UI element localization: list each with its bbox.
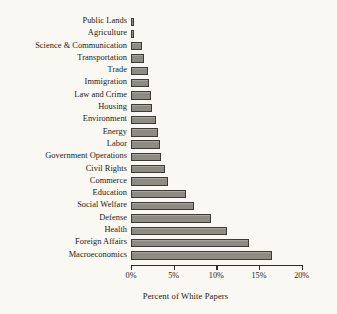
bar — [131, 153, 161, 161]
x-tick — [259, 265, 260, 270]
bar-track — [131, 104, 152, 112]
bar — [131, 79, 149, 87]
bar — [131, 128, 158, 136]
bar-row: Macroeconomics — [0, 250, 337, 262]
bar — [131, 239, 249, 247]
bar-track — [131, 177, 168, 185]
bar-track — [131, 18, 134, 26]
bar — [131, 227, 227, 235]
bar — [131, 165, 165, 173]
bar-track — [131, 54, 144, 62]
bar — [131, 42, 142, 50]
x-tick-label: 5% — [168, 271, 179, 280]
bar — [131, 91, 151, 99]
x-tick — [302, 265, 303, 270]
bar — [131, 140, 160, 148]
bar-chart: Public LandsAgricultureScience & Communi… — [0, 0, 337, 314]
bar-track — [131, 214, 211, 222]
bar — [131, 190, 186, 198]
bar — [131, 214, 211, 222]
x-axis-title: Percent of White Papers — [0, 291, 337, 301]
category-label: Energy — [0, 126, 127, 137]
category-label: Public Lands — [0, 15, 127, 26]
category-label: Immigration — [0, 76, 127, 87]
bar-track — [131, 165, 165, 173]
category-label: Social Welfare — [0, 199, 127, 210]
bar-track — [131, 30, 134, 38]
bar — [131, 18, 134, 26]
chart-rows: Public LandsAgricultureScience & Communi… — [0, 16, 337, 262]
bar-track — [131, 79, 149, 87]
x-tick-label: 20% — [294, 271, 309, 280]
category-label: Civil Rights — [0, 163, 127, 174]
bar-track — [131, 153, 161, 161]
category-label: Foreign Affairs — [0, 236, 127, 247]
bar-track — [131, 67, 148, 75]
category-label: Health — [0, 224, 127, 235]
bar-track — [131, 227, 227, 235]
bar-track — [131, 128, 158, 136]
category-label: Macroeconomics — [0, 249, 127, 260]
bar — [131, 177, 168, 185]
bar-track — [131, 116, 156, 124]
category-label: Environment — [0, 113, 127, 124]
bar-track — [131, 140, 160, 148]
bar — [131, 116, 156, 124]
category-label: Trade — [0, 64, 127, 75]
bar — [131, 251, 272, 259]
x-tick-label: 15% — [252, 271, 267, 280]
x-tick-label: 0% — [126, 271, 137, 280]
category-label: Labor — [0, 138, 127, 149]
category-label: Agriculture — [0, 27, 127, 38]
bar-track — [131, 91, 151, 99]
category-label: Transportation — [0, 52, 127, 63]
x-tick — [216, 265, 217, 270]
x-tick — [174, 265, 175, 270]
x-tick — [131, 265, 132, 270]
category-label: Defense — [0, 212, 127, 223]
bar — [131, 30, 134, 38]
bar-track — [131, 251, 272, 259]
category-label: Law and Crime — [0, 89, 127, 100]
bar — [131, 54, 144, 62]
category-label: Housing — [0, 101, 127, 112]
category-label: Government Operations — [0, 150, 127, 161]
bar-track — [131, 202, 194, 210]
bar-track — [131, 42, 142, 50]
bar — [131, 67, 148, 75]
bar — [131, 104, 152, 112]
x-tick-label: 10% — [209, 271, 224, 280]
category-label: Science & Communication — [0, 40, 127, 51]
bar-track — [131, 239, 249, 247]
category-label: Commerce — [0, 175, 127, 186]
category-label: Education — [0, 187, 127, 198]
bar-track — [131, 190, 186, 198]
bar — [131, 202, 194, 210]
